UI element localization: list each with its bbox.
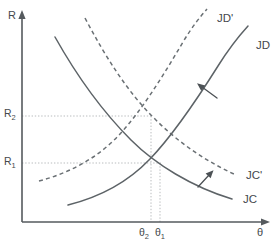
curve-label-JD: JD [256, 40, 270, 52]
y-tick-R2-base: R [4, 107, 12, 119]
y-tick-R1-base: R [4, 155, 12, 167]
x-tick-label-theta1: θ1 [155, 227, 165, 241]
curve-label-JC: JC [243, 194, 257, 206]
curve-JD [68, 26, 248, 205]
curve-JC [55, 37, 232, 199]
shift-arrows [197, 83, 217, 187]
curve-label-JD-prime: JD' [217, 13, 233, 25]
diagram-canvas [0, 0, 280, 252]
curve-JC-prime [85, 18, 236, 175]
y-axis-label: R [8, 10, 16, 21]
x-tick-label-theta2: θ2 [139, 227, 149, 241]
economics-diagram: R θ R2 R1 θ2 θ1 JD' JD JC' JC [0, 0, 280, 252]
jd-shift-arrow-head [197, 83, 205, 91]
x-axis-label: θ [257, 227, 263, 238]
x-tick-theta2-subscript: 2 [145, 232, 149, 241]
axes [18, 10, 270, 226]
y-tick-label-R2: R2 [4, 108, 16, 122]
y-tick-R2-subscript: 2 [12, 113, 16, 122]
jd-shift-arrow-shaft [202, 87, 217, 98]
jc-shift-arrow-shaft [198, 175, 209, 187]
y-axis-arrowhead [18, 10, 25, 19]
y-tick-label-R1: R1 [4, 156, 16, 170]
x-tick-theta1-subscript: 1 [161, 232, 165, 241]
x-axis-arrowhead [261, 218, 270, 225]
y-tick-R1-subscript: 1 [12, 161, 16, 170]
curve-JD-prime [39, 9, 207, 181]
curve-label-JC-prime: JC' [246, 170, 262, 182]
